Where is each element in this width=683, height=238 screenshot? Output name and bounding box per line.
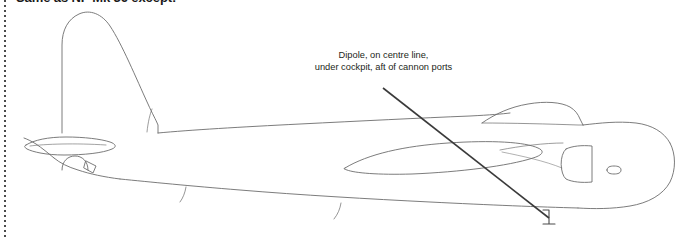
vertical-fin-outline bbox=[62, 12, 158, 133]
nose-upper-line bbox=[583, 122, 670, 143]
forward-panel-lower-line bbox=[502, 152, 562, 168]
tailcone-line bbox=[24, 138, 54, 158]
cockpit-canopy-outline bbox=[482, 102, 583, 125]
panel-tick-forward bbox=[334, 203, 341, 219]
fuselage-lower-line bbox=[120, 179, 578, 208]
aircraft-side-profile-drawing bbox=[0, 0, 683, 238]
fuselage-upper-line bbox=[158, 113, 510, 133]
tailwheel-strut bbox=[84, 161, 96, 173]
rudder-hinge-line bbox=[147, 109, 152, 132]
canopy-sill-line bbox=[482, 123, 583, 125]
wing-root-fairing-outline bbox=[344, 142, 542, 175]
panel-tick-aft bbox=[180, 187, 186, 202]
callout-leader-line bbox=[383, 88, 549, 218]
access-panel-outline bbox=[561, 146, 592, 183]
small-port-outline bbox=[607, 166, 621, 174]
forward-panel-line bbox=[500, 143, 563, 150]
nose-tip-line bbox=[578, 143, 675, 209]
tailplane-hinge-line bbox=[30, 144, 106, 146]
diagram-page: Same as NF Mk 36 except: Dipole, on cent… bbox=[0, 0, 683, 238]
